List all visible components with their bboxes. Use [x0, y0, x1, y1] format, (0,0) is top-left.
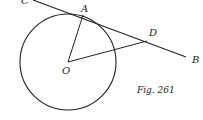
label-O: O [62, 65, 70, 76]
segment-OD [68, 41, 147, 62]
geometry-figure: C A D B O Fig. 261 [0, 0, 203, 120]
radius-OA [68, 15, 83, 62]
label-A: A [80, 3, 88, 14]
label-C: C [21, 0, 29, 6]
label-B: B [191, 54, 199, 65]
figure-caption: Fig. 261 [136, 85, 175, 95]
tangent-line-CB [33, 0, 186, 57]
label-D: D [148, 27, 157, 38]
